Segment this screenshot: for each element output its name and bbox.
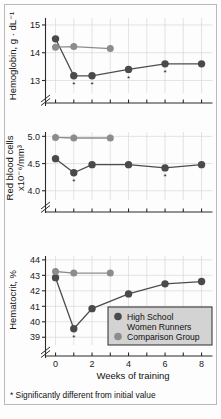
x-axis-tick-label: 8 — [199, 359, 204, 369]
data-point-runners — [70, 325, 77, 332]
data-point-runners — [198, 60, 205, 67]
y-axis-tick-label: 4.5 — [27, 159, 40, 169]
legend-marker-runners — [114, 313, 122, 321]
legend-label-runners-line2: Women Runners — [127, 322, 191, 332]
x-axis-title: Weeks of training — [96, 370, 169, 381]
y-axis-tick-label: 40 — [30, 317, 40, 327]
significance-asterisk: * — [72, 177, 75, 186]
data-point-comparison — [70, 134, 77, 141]
multi-panel-chart: 131415****4.04.55.0**394041424344*Hemogl… — [0, 0, 221, 419]
y-axis-title-hemoglobin: Hemoglobin, g · dL⁻¹ — [7, 12, 18, 100]
y-axis-tick-label: 13 — [30, 76, 40, 86]
panel-red-blood-cells: 4.04.55.0** — [27, 132, 212, 213]
y-axis-tick-label: 44 — [30, 255, 40, 265]
significance-asterisk: * — [127, 74, 130, 83]
y-axis-tick-label: 41 — [30, 302, 40, 312]
x-axis-tick-label: 4 — [126, 359, 131, 369]
data-point-comparison — [70, 43, 77, 50]
data-point-runners — [88, 305, 95, 312]
x-axis-tick-label: 2 — [90, 359, 95, 369]
data-point-runners — [52, 155, 59, 162]
chart-legend: High SchoolWomen RunnersComparison Group — [108, 307, 212, 345]
x-axis-tick-label: 6 — [163, 359, 168, 369]
figure-footnote: * Significantly different from initial v… — [10, 390, 156, 400]
data-point-runners — [161, 280, 168, 287]
figure-container: 131415****4.04.55.0**394041424344*Hemogl… — [0, 0, 221, 419]
data-point-runners — [125, 290, 132, 297]
y-axis-tick-label: 43 — [30, 271, 40, 281]
y-axis-title-hematocrit: Hematocrit, % — [7, 270, 18, 330]
data-point-comparison — [52, 268, 59, 275]
data-point-runners — [88, 72, 95, 79]
data-point-runners — [52, 35, 59, 42]
legend-label-comparison: Comparison Group — [127, 332, 200, 342]
significance-asterisk: * — [72, 80, 75, 89]
y-axis-tick-label: 5.0 — [27, 132, 40, 142]
y-axis-tick-label: 39 — [30, 332, 40, 342]
y-axis-tick-label: 4.0 — [27, 186, 40, 196]
data-point-runners — [125, 161, 132, 168]
x-axis-tick-label: 0 — [53, 359, 58, 369]
y-axis-tick-label: 42 — [30, 286, 40, 296]
data-point-comparison — [52, 134, 59, 141]
y-axis-title-rbc-line1: Red blood cells — [4, 135, 15, 200]
data-point-comparison — [52, 44, 59, 51]
data-point-runners — [198, 278, 205, 285]
data-point-comparison — [107, 134, 114, 141]
panel-hemoglobin: 131415**** — [30, 18, 213, 106]
panel-stack: 131415****4.04.55.0**394041424344*Hemogl… — [0, 0, 221, 419]
series-line-comparison — [56, 271, 111, 273]
significance-asterisk: * — [163, 68, 166, 77]
data-point-runners — [70, 72, 77, 79]
series-line-comparison — [56, 47, 111, 49]
y-axis-tick-label: 14 — [30, 48, 40, 58]
data-point-runners — [70, 169, 77, 176]
legend-label-runners-line1: High School — [127, 312, 173, 322]
data-point-comparison — [70, 270, 77, 277]
legend-marker-comparison — [114, 333, 122, 341]
data-point-comparison — [107, 270, 114, 277]
significance-asterisk: * — [72, 333, 75, 342]
data-point-runners — [52, 274, 59, 281]
y-axis-tick-label: 15 — [30, 20, 40, 30]
data-point-comparison — [107, 45, 114, 52]
series-line-comparison — [56, 137, 111, 138]
data-point-runners — [198, 161, 205, 168]
data-point-runners — [88, 161, 95, 168]
data-point-runners — [125, 66, 132, 73]
significance-asterisk: * — [163, 172, 166, 181]
significance-asterisk: * — [90, 80, 93, 89]
data-point-runners — [161, 60, 168, 67]
y-axis-title-rbc-line2: x10⁻⁶/mm³ — [15, 145, 26, 191]
data-point-runners — [161, 164, 168, 171]
